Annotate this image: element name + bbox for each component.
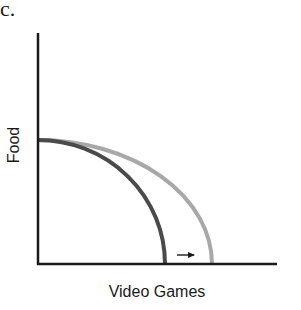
ppf-chart: [0, 0, 301, 310]
original-ppf-curve: [38, 140, 165, 264]
shifted-ppf-curve: [38, 140, 212, 264]
